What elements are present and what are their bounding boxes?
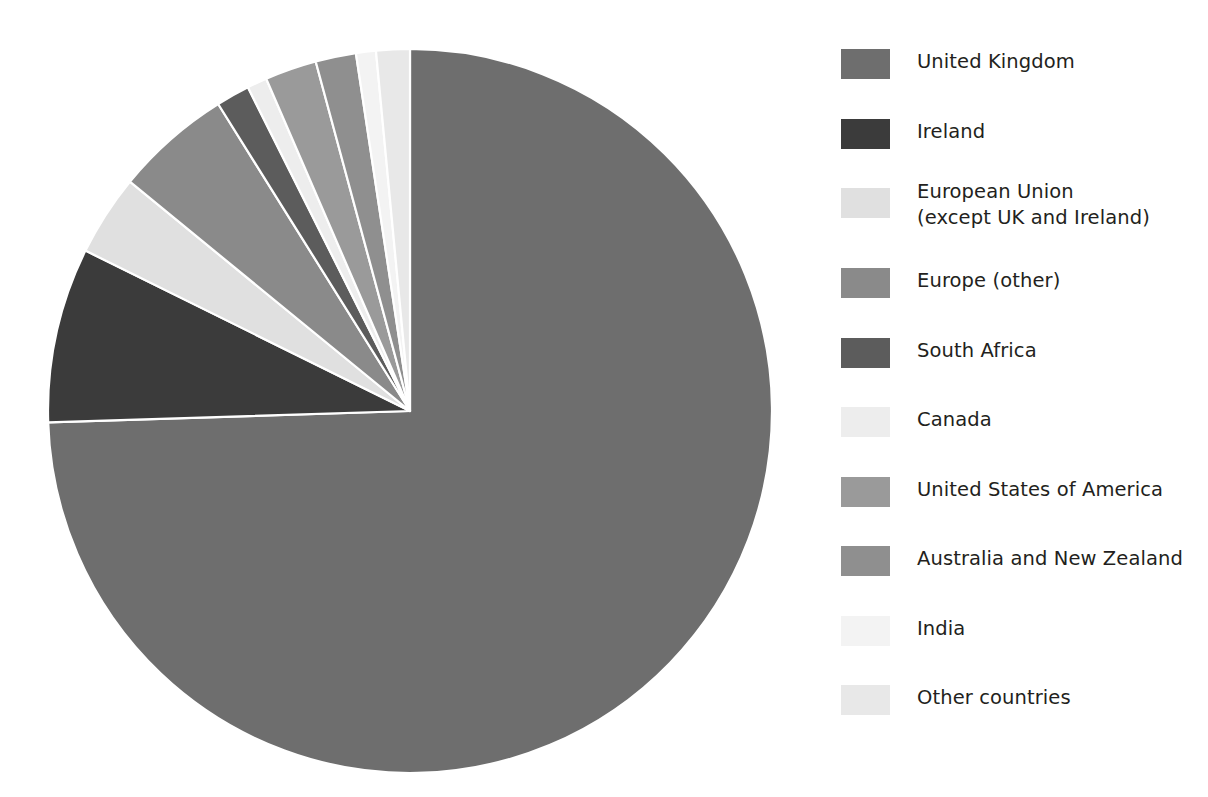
pie-chart-svg (0, 0, 820, 797)
legend-item[interactable]: Australia and New Zealand (841, 533, 1201, 603)
pie-chart-plot-area (0, 0, 820, 797)
legend-item-label: India (917, 603, 965, 642)
legend-item-label: United States of America (917, 464, 1163, 503)
legend-item-label: Other countries (917, 672, 1071, 711)
legend-swatch-icon (841, 685, 890, 715)
legend-swatch-icon (841, 338, 890, 368)
legend-swatch-icon (841, 119, 890, 149)
legend-item-label: United Kingdom (917, 36, 1075, 75)
legend-item[interactable]: Europe (other) (841, 255, 1201, 325)
chart-legend: United KingdomIrelandEuropean Union (exc… (841, 36, 1201, 742)
legend-swatch-icon (841, 188, 890, 218)
legend-item[interactable]: South Africa (841, 325, 1201, 395)
legend-item[interactable]: India (841, 603, 1201, 673)
legend-item[interactable]: European Union (except UK and Ireland) (841, 175, 1201, 255)
legend-item[interactable]: Other countries (841, 672, 1201, 742)
legend-item-label: Europe (other) (917, 255, 1060, 294)
legend-item-label: South Africa (917, 325, 1037, 364)
legend-swatch-icon (841, 477, 890, 507)
legend-item[interactable]: United States of America (841, 464, 1201, 534)
pie-chart-page: United KingdomIrelandEuropean Union (exc… (0, 0, 1208, 797)
legend-swatch-icon (841, 49, 890, 79)
legend-swatch-icon (841, 268, 890, 298)
legend-item-label: Australia and New Zealand (917, 533, 1183, 572)
legend-swatch-icon (841, 616, 890, 646)
legend-item[interactable]: Ireland (841, 106, 1201, 176)
legend-swatch-icon (841, 546, 890, 576)
legend-item-label: European Union (except UK and Ireland) (917, 175, 1150, 231)
legend-swatch-icon (841, 407, 890, 437)
legend-item-label: Canada (917, 394, 992, 433)
legend-item[interactable]: Canada (841, 394, 1201, 464)
legend-item-label: Ireland (917, 106, 985, 145)
legend-item[interactable]: United Kingdom (841, 36, 1201, 106)
